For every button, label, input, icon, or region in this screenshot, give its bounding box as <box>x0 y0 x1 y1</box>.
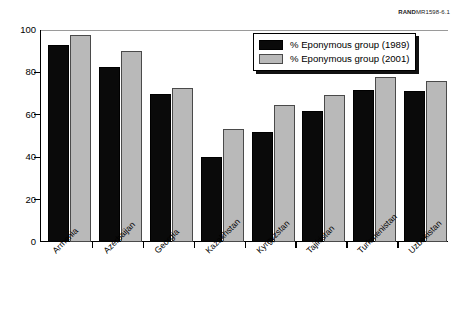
legend-item: % Eponymous group (1989) <box>259 38 409 52</box>
x-tick-mark <box>92 242 93 248</box>
bar <box>150 94 171 242</box>
x-tick-mark <box>245 242 246 248</box>
legend-label: % Eponymous group (1989) <box>290 40 409 50</box>
y-tick-mark <box>34 114 40 115</box>
bar-group <box>99 30 142 242</box>
y-tick-label: 80 <box>10 67 36 77</box>
chart-legend: % Eponymous group (1989)% Eponymous grou… <box>253 33 416 71</box>
y-tick-label: 40 <box>10 152 36 162</box>
legend-item: % Eponymous group (2001) <box>259 52 409 66</box>
bar <box>324 95 345 242</box>
bar <box>172 88 193 242</box>
legend-swatch <box>259 54 283 64</box>
bar <box>353 90 374 242</box>
y-tick-label: 60 <box>10 110 36 120</box>
x-tick-mark <box>295 242 296 248</box>
bar <box>201 157 222 242</box>
bar <box>252 132 273 242</box>
legend-swatch <box>259 40 283 50</box>
y-tick-mark <box>34 157 40 158</box>
bar-group <box>48 30 91 242</box>
bar <box>404 91 425 242</box>
source-credit-document-id: MR1598-6.1 <box>416 9 450 15</box>
figure-container: RANDMR1598-6.1 020406080100 ArmeniaAzerb… <box>0 0 462 313</box>
x-tick-mark <box>397 242 398 248</box>
bar <box>70 35 91 242</box>
x-tick-mark <box>194 242 195 248</box>
y-tick-label: 100 <box>10 25 36 35</box>
bar <box>121 51 142 242</box>
bar-group <box>150 30 193 242</box>
source-credit-brand: RAND <box>398 9 416 15</box>
x-tick-mark <box>346 242 347 248</box>
y-tick-label: 20 <box>10 195 36 205</box>
y-tick-mark <box>34 199 40 200</box>
bar <box>99 67 120 242</box>
bar <box>48 45 69 242</box>
y-tick-label: 0 <box>10 237 36 247</box>
y-tick-mark <box>34 72 40 73</box>
x-tick-mark <box>143 242 144 248</box>
bar-group <box>201 30 244 242</box>
source-credit: RANDMR1598-6.1 <box>398 9 450 15</box>
bar <box>302 111 323 242</box>
legend-label: % Eponymous group (2001) <box>290 54 409 64</box>
